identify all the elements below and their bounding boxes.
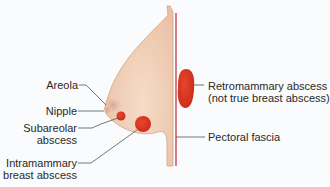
- label-nipple: Nipple: [46, 105, 77, 117]
- breast-outline: [105, 6, 173, 166]
- label-retromammary-line1: Retromammary abscess: [208, 80, 327, 92]
- diagram: Areola Nipple Subareolar abscess Intrama…: [0, 0, 330, 187]
- nipple-shape: [105, 107, 110, 113]
- label-subareolar-line1: Subareolar: [23, 122, 77, 134]
- subareolar-abscess-shape: [117, 112, 126, 121]
- label-areola: Areola: [46, 79, 78, 91]
- retromammary-abscess-shape: [178, 69, 195, 108]
- label-subareolar-line2: abscess: [37, 134, 77, 146]
- label-intramammary-line1: Intramammary: [6, 157, 77, 169]
- label-retromammary-line2: (not true breast abscess): [208, 92, 330, 104]
- label-intramammary-line2: breast abscess: [3, 169, 77, 181]
- label-pectoral-fascia: Pectoral fascia: [208, 131, 280, 143]
- intramammary-abscess-shape: [135, 116, 151, 132]
